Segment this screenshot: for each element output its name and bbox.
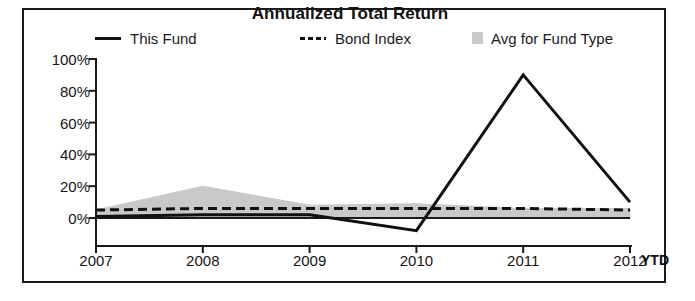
y-axis-tick-label: 0% [28,210,90,227]
chart-legend: This Fund Bond Index Avg for Fund Type [95,27,675,49]
chart-title: Annualized Total Return [180,4,520,24]
x-axis-labels: 200720082009201020112012 [0,249,695,275]
legend-label-this-fund: This Fund [130,30,197,47]
y-axis-tick-label: 40% [28,146,90,163]
y-axis-tick-label: 100% [28,51,90,68]
x-axis-tick-label: 2010 [400,252,433,269]
y-axis-tick-label: 60% [28,114,90,131]
x-axis-tick-label: 2011 [507,252,539,269]
legend-item-this-fund: This Fund [95,27,197,49]
x-axis-tick-label: 2007 [79,252,112,269]
chart-frame [22,8,666,283]
legend-item-avg-for-fund-type: Avg for Fund Type [470,27,613,49]
x-axis-ytd-label: YTD [641,252,669,268]
legend-item-bond-index: Bond Index [300,27,411,49]
dashed-line-icon [300,32,326,44]
y-axis-tick-label: 80% [28,82,90,99]
area-swatch-icon [470,32,482,44]
y-axis-tick-label: 20% [28,178,90,195]
legend-label-bond-index: Bond Index [335,30,411,47]
annualized-total-return-chart: Annualized Total Return This Fund Bond I… [0,0,695,301]
x-axis-tick-label: 2008 [186,252,219,269]
solid-line-icon [95,32,121,44]
x-axis-tick-label: 2009 [293,252,326,269]
legend-label-avg-for-fund-type: Avg for Fund Type [491,30,613,47]
